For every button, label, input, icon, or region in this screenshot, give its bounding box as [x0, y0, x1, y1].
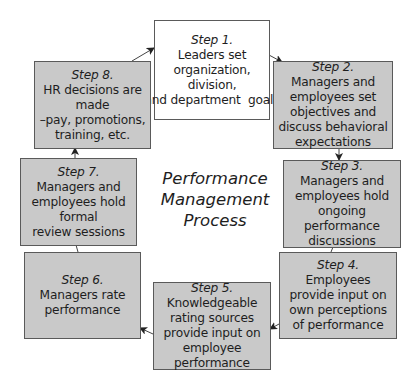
step-2-text: discuss behavioral — [278, 120, 387, 135]
step-7-label: Step 7. — [58, 165, 100, 180]
title-line: Performance — [150, 168, 280, 189]
step-7-text: review sessions — [32, 225, 125, 240]
step-3-text: ongoing performance — [286, 204, 398, 234]
step-2-text: objectives and — [290, 105, 376, 120]
step-4-label: Step 4. — [317, 258, 359, 273]
step-2-text: Managers and — [291, 75, 375, 90]
step-4-box: Step 4. Employees provide input on own p… — [279, 252, 397, 339]
step-2-label: Step 2. — [312, 60, 354, 75]
step-8-label: Step 8. — [72, 68, 114, 83]
step-8-box: Step 8. HR decisions are made –pay, prom… — [34, 61, 151, 149]
step-6-text: performance — [45, 303, 121, 318]
step-1-text: organization, division, — [157, 63, 267, 93]
step-6-box: Step 6. Managers rate performance — [24, 252, 141, 339]
step-1-text: Leaders set — [178, 48, 246, 63]
step-7-text: employees hold formal — [23, 195, 134, 225]
step-8-text: HR decisions are made — [37, 83, 148, 113]
arrow-step8-to-step1 — [132, 48, 154, 61]
step-6-text: Managers rate — [40, 288, 126, 303]
step-8-text: –pay, promotions, — [40, 113, 146, 128]
title-line: Process — [150, 210, 280, 231]
step-4-text: of performance — [293, 318, 384, 333]
arrow-step5-to-step6 — [140, 328, 153, 334]
step-5-label: Step 5. — [191, 281, 233, 296]
step-5-text: Knowledgeable — [167, 296, 258, 311]
diagram-title: Performance Management Process — [150, 168, 280, 231]
step-3-text: employees hold — [295, 189, 389, 204]
step-5-box: Step 5. Knowledgeable rating sources pro… — [153, 282, 271, 370]
step-7-box: Step 7. Managers and employees hold form… — [20, 158, 137, 246]
step-1-text: and department goals — [145, 93, 280, 108]
step-2-text: employees set — [290, 90, 376, 105]
step-7-text: Managers and — [36, 180, 120, 195]
step-1-label: Step 1. — [191, 33, 233, 48]
step-5-text: provide input on — [164, 326, 261, 341]
step-5-text: rating sources — [170, 311, 254, 326]
arrow-step4-to-step5 — [270, 324, 279, 329]
step-3-box: Step 3. Managers and employees hold ongo… — [283, 160, 401, 248]
arrow-step6-to-step7 — [76, 245, 78, 252]
step-2-box: Step 2. Managers and employees set objec… — [273, 61, 393, 149]
step-4-text: Employees — [306, 273, 371, 288]
step-4-text: own perceptions — [289, 303, 387, 318]
step-5-text: performance — [174, 356, 250, 371]
step-2-text: expectations — [295, 135, 371, 150]
step-3-text: Managers and — [300, 174, 384, 189]
step-6-label: Step 6. — [62, 273, 104, 288]
step-8-text: training, etc. — [55, 128, 130, 143]
step-4-text: provide input on — [290, 288, 387, 303]
step-3-label: Step 3. — [321, 159, 363, 174]
step-3-text: discussions — [308, 234, 375, 249]
title-line: Management — [150, 189, 280, 210]
step-1-box: Step 1. Leaders set organization, divisi… — [154, 20, 270, 120]
step-5-text: employee — [183, 341, 242, 356]
